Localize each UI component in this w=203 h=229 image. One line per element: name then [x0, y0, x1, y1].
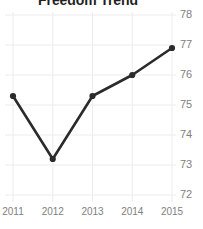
y-axis-tick-label: 73 [180, 159, 202, 170]
data-point-marker [10, 93, 16, 99]
data-point-marker [89, 93, 95, 99]
line-chart: Freedom Trend 78777675747372 20112012201… [0, 0, 203, 229]
x-axis-tick-label: 2014 [112, 206, 152, 217]
chart-canvas [0, 0, 203, 229]
data-point-marker [129, 72, 135, 78]
y-axis-tick-label: 74 [180, 129, 202, 140]
plot-area: 78777675747372 20112012201320142015 [0, 0, 203, 229]
y-axis-tick-label: 72 [180, 189, 202, 200]
x-axis-tick-label: 2015 [152, 206, 192, 217]
vertical-gridlines [13, 12, 172, 202]
y-axis-tick-label: 76 [180, 69, 202, 80]
y-axis-tick-label: 77 [180, 39, 202, 50]
data-point-marker [169, 45, 175, 51]
data-point-marker [50, 156, 56, 162]
horizontal-gridlines [5, 15, 176, 195]
x-axis-tick-label: 2012 [33, 206, 73, 217]
x-axis-tick-label: 2011 [0, 206, 33, 217]
x-axis-tick-label: 2013 [73, 206, 113, 217]
y-axis-tick-label: 75 [180, 99, 202, 110]
y-axis-tick-label: 78 [180, 9, 202, 20]
